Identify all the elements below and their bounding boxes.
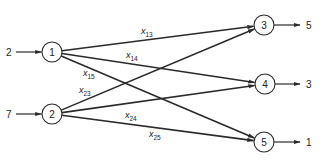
node-4: 4: [255, 74, 275, 94]
demand-value-3: 5: [306, 20, 312, 31]
node-label: 5: [261, 137, 267, 148]
node-1: 1: [42, 42, 62, 62]
edge-label-x13: x13: [140, 26, 153, 38]
node-2: 2: [42, 104, 62, 124]
node-label: 1: [49, 47, 55, 58]
edge-label-x14: x14: [125, 50, 138, 62]
supply-value-2: 7: [6, 109, 12, 120]
edge-label-x25: x25: [148, 129, 161, 141]
edge-label-x23: x23: [78, 85, 91, 97]
node-label: 2: [49, 109, 55, 120]
node-label: 4: [262, 79, 268, 90]
node-3: 3: [254, 15, 274, 35]
supply-value-1: 2: [6, 47, 12, 58]
node-label: 3: [261, 20, 267, 31]
edge-1-3: [62, 26, 254, 50]
demand-value-4: 3: [306, 79, 312, 90]
node-5: 5: [254, 132, 274, 152]
edges-layer: [61, 26, 254, 140]
edge-label-x24: x24: [124, 110, 137, 122]
edge-2-4: [62, 85, 255, 112]
edge-2-3: [61, 29, 254, 110]
transportation-network-diagram: 27531 12345 x13x14x15x23x24x25: [0, 0, 324, 162]
demand-value-5: 1: [306, 137, 312, 148]
